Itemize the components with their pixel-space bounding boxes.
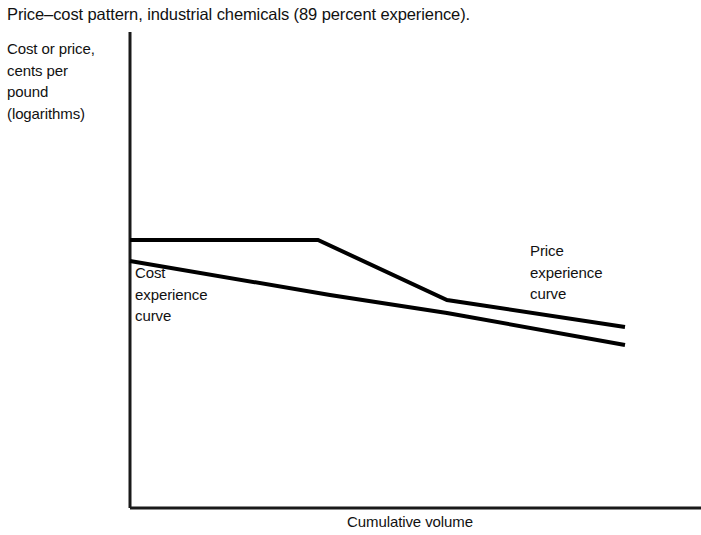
price-curve-annotation: Price experience curve	[530, 240, 602, 305]
cost-curve-annotation: Cost experience curve	[135, 262, 207, 327]
price-curve-annotation-line-3: curve	[530, 283, 602, 305]
cost-curve-annotation-line-3: curve	[135, 305, 207, 327]
figure-root: Price–cost pattern, industrial chemicals…	[0, 0, 701, 535]
cost-curve-annotation-line-1: Cost	[135, 262, 207, 284]
x-axis-label: Cumulative volume	[130, 513, 690, 530]
price-curve-annotation-line-1: Price	[530, 240, 602, 262]
cost-curve-annotation-line-2: experience	[135, 284, 207, 306]
price-curve-annotation-line-2: experience	[530, 262, 602, 284]
